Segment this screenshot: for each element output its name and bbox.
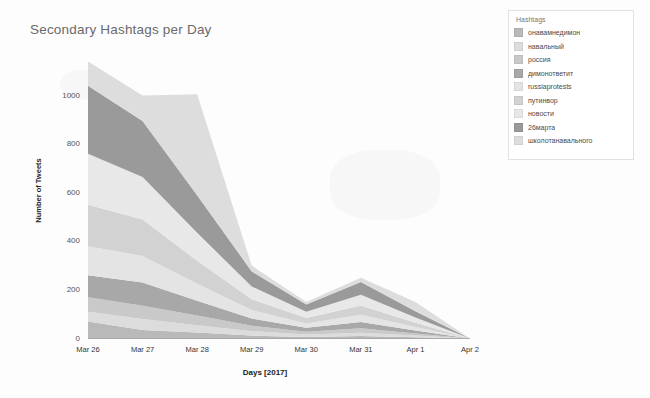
legend-swatch-icon xyxy=(514,42,523,51)
legend-swatch-icon xyxy=(514,136,523,145)
y-tick-label: 200 xyxy=(38,285,80,294)
legend-item[interactable]: школотанавального xyxy=(514,135,629,146)
legend-swatch-icon xyxy=(514,28,523,37)
legend-item[interactable]: 26марта xyxy=(514,122,629,133)
legend-item-label: путинвор xyxy=(528,96,558,105)
legend-item-label: новости xyxy=(528,109,554,118)
x-tick-label: Mar 26 xyxy=(58,345,118,354)
x-tick-label: Mar 31 xyxy=(331,345,391,354)
legend-item-label: россия xyxy=(528,55,551,64)
legend: Hashtags онавамнедимоннавальныйроссиядим… xyxy=(508,10,634,160)
legend-swatch-icon xyxy=(514,109,523,118)
y-tick-label: 1000 xyxy=(38,91,80,100)
x-tick-label: Apr 1 xyxy=(385,345,445,354)
area-series-group xyxy=(88,61,470,338)
x-tick-label: Mar 28 xyxy=(167,345,227,354)
x-tick-label: Mar 29 xyxy=(222,345,282,354)
x-tick-label: Mar 30 xyxy=(276,345,336,354)
legend-item[interactable]: russiaprotests xyxy=(514,81,629,92)
legend-items: онавамнедимоннавальныйроссиядимонответит… xyxy=(514,27,629,146)
y-tick-label: 400 xyxy=(38,236,80,245)
legend-swatch-icon xyxy=(514,82,523,91)
plot-area: 10008006004002000 Mar 26Mar 27Mar 28Mar … xyxy=(0,0,500,398)
x-tick-label: Apr 2 xyxy=(440,345,500,354)
x-tick-label: Mar 27 xyxy=(113,345,173,354)
y-tick-label: 0 xyxy=(38,334,80,343)
legend-item[interactable]: россия xyxy=(514,54,629,65)
legend-item-label: 26марта xyxy=(528,123,555,132)
legend-title: Hashtags xyxy=(516,16,629,23)
legend-swatch-icon xyxy=(514,96,523,105)
legend-item-label: димонответит xyxy=(528,69,573,78)
legend-item-label: навальный xyxy=(528,42,564,51)
y-tick-label: 600 xyxy=(38,188,80,197)
legend-swatch-icon xyxy=(514,55,523,64)
legend-item[interactable]: путинвор xyxy=(514,95,629,106)
legend-item-label: школотанавального xyxy=(528,136,593,145)
legend-swatch-icon xyxy=(514,69,523,78)
y-tick-label: 800 xyxy=(38,139,80,148)
legend-item[interactable]: навальный xyxy=(514,41,629,52)
legend-swatch-icon xyxy=(514,123,523,132)
legend-item[interactable]: онавамнедимон xyxy=(514,27,629,38)
legend-item-label: онавамнедимон xyxy=(528,28,580,37)
x-axis-title: Days [2017] xyxy=(90,368,440,377)
legend-item[interactable]: новости xyxy=(514,108,629,119)
y-axis-title: Number of Tweets xyxy=(34,131,43,251)
legend-item[interactable]: димонответит xyxy=(514,68,629,79)
legend-item-label: russiaprotests xyxy=(528,82,572,91)
chart-page: Secondary Hashtags per Day 1000800600400… xyxy=(0,0,650,398)
